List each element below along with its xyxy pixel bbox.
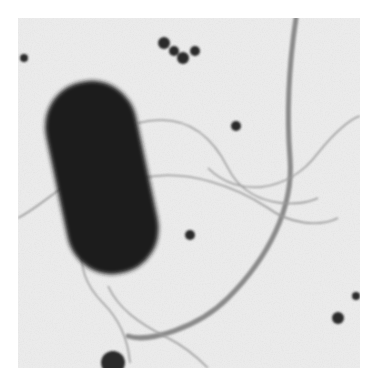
micrograph-image (18, 18, 360, 368)
